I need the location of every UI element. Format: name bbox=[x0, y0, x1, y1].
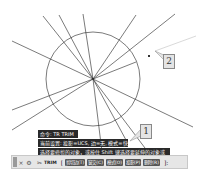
command-line[interactable]: × ⚙ ✂ TRIM [ 剪切边(T) 窗交(C) 模式(O) 投影(P) 删除… bbox=[11, 155, 188, 169]
construction-line[interactable] bbox=[93, 14, 175, 79]
command-icon[interactable]: ✂ bbox=[37, 159, 42, 166]
close-icon[interactable]: × bbox=[17, 157, 25, 167]
crosshair-cursor-icon bbox=[148, 55, 150, 57]
callout-2: 2 bbox=[163, 54, 175, 69]
customize-icon[interactable]: ⚙ bbox=[25, 157, 33, 167]
command-name: TRIM bbox=[44, 160, 57, 165]
preview-line bbox=[155, 36, 196, 51]
construction-line[interactable] bbox=[93, 79, 126, 140]
command-history-line-2: 当前设置: 投影=UCS, 边=无, 模式=快速 bbox=[38, 139, 128, 147]
close-bracket: ]: bbox=[164, 159, 168, 166]
construction-line[interactable] bbox=[43, 16, 93, 79]
option-erase[interactable]: 删除(R) bbox=[143, 159, 160, 166]
callout-1: 1 bbox=[140, 124, 152, 139]
option-crossing[interactable]: 窗交(C) bbox=[87, 159, 104, 166]
construction-line[interactable] bbox=[93, 15, 136, 79]
construction-line[interactable] bbox=[12, 41, 93, 79]
construction-line[interactable] bbox=[12, 79, 93, 130]
construction-line[interactable] bbox=[12, 79, 93, 110]
open-bracket: [ bbox=[61, 159, 63, 166]
option-cutting-edges[interactable]: 剪切边(T) bbox=[65, 159, 85, 166]
option-mode[interactable]: 模式(O) bbox=[106, 159, 123, 166]
construction-line[interactable] bbox=[93, 62, 136, 79]
option-project[interactable]: 投影(P) bbox=[125, 159, 141, 166]
command-history-line-1: 命令: TR TRIM bbox=[38, 130, 78, 138]
construction-line[interactable] bbox=[93, 79, 193, 127]
